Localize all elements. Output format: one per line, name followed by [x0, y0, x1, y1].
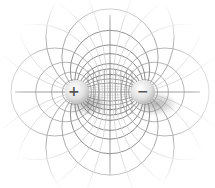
positive-sign-icon: +	[68, 84, 80, 98]
dipole-diagram: + −	[0, 0, 215, 188]
field-lines-canvas	[0, 0, 215, 188]
edge-fade	[0, 0, 215, 188]
negative-sign-icon: −	[137, 84, 149, 98]
